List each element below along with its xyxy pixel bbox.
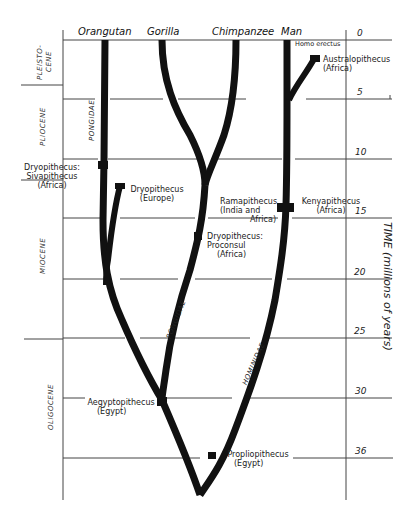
fossil-ramapithecus: Ramapithecus (India and Africa) xyxy=(220,197,276,224)
epoch-pleistocene-2: CENE xyxy=(45,51,53,72)
fossil-kenyapithecus-place: (Africa) xyxy=(300,206,362,215)
fossil-dryopithecus-europe-name: Dryopithecus xyxy=(126,185,188,194)
fossil-australopithecus-name: Australopithecus xyxy=(323,55,390,64)
fossil-sivapithecus-name1: Dryopithecus: xyxy=(12,163,92,172)
time-tick-10: 10 xyxy=(355,147,366,157)
time-tick-30: 30 xyxy=(355,386,366,396)
fossil-dryopithecus-europe: Dryopithecus (Europe) xyxy=(126,185,188,203)
column-label-orangutan: Orangutan xyxy=(78,26,132,37)
fossil-proconsul-name2: Proconsul xyxy=(207,241,263,250)
time-tick-25: 25 xyxy=(354,326,365,336)
epoch-pliocene: PLIOCENE xyxy=(39,107,47,146)
fossil-aegyptopithecus-name: Aegyptopithecus xyxy=(85,398,157,407)
time-tick-5: 5 xyxy=(357,87,363,97)
fossil-aegyptopithecus-place: (Egypt) xyxy=(85,407,157,416)
time-tick-36: 36 xyxy=(355,446,366,456)
fossil-ramapithecus-place1: (India and xyxy=(220,206,276,215)
fossil-proconsul-name1: Dryopithecus: xyxy=(207,232,263,241)
fossil-sivapithecus-place: (Africa) xyxy=(12,181,92,190)
column-label-man: Man xyxy=(281,26,302,37)
fossil-australopithecus: Australopithecus (Africa) xyxy=(323,55,390,73)
family-pongidae-upper: PONGIDAE xyxy=(88,100,96,141)
fossil-kenyapithecus-name: Kenyapithecus xyxy=(300,197,362,206)
column-label-chimpanzee: Chimpanzee xyxy=(212,26,274,37)
fossil-dryopithecus-europe-place: (Europe) xyxy=(126,194,188,203)
epoch-oligocene: OLIGOCENE xyxy=(47,384,55,430)
fossil-proconsul-place: (Africa) xyxy=(207,250,263,259)
time-axis-title: TIME (millions of years) xyxy=(381,222,394,351)
fossil-australopithecus-place: (Africa) xyxy=(323,64,390,73)
phylogeny-diagram xyxy=(0,0,412,529)
fossil-propliopithecus-place: (Egypt) xyxy=(222,459,294,468)
time-tick-0: 0 xyxy=(357,28,363,38)
time-tick-20: 20 xyxy=(354,267,365,277)
tree-branches xyxy=(103,40,314,495)
fossil-kenyapithecus: Kenyapithecus (Africa) xyxy=(300,197,362,215)
fossil-propliopithecus-name: Propliopithecus xyxy=(222,450,294,459)
fossil-aegyptopithecus: Aegyptopithecus (Egypt) xyxy=(85,398,157,416)
fossil-ramapithecus-place2: Africa) xyxy=(220,215,276,224)
fossil-sivapithecus: Dryopithecus: Sivapithecus (Africa) xyxy=(12,163,92,190)
epoch-miocene: MIOCENE xyxy=(39,238,47,274)
fossil-propliopithecus: Propliopithecus (Egypt) xyxy=(222,450,294,468)
fossil-ramapithecus-name: Ramapithecus xyxy=(220,197,276,206)
fossil-sivapithecus-name2: Sivapithecus xyxy=(12,172,92,181)
column-label-gorilla: Gorilla xyxy=(147,26,179,37)
epoch-pleistocene-1: PLEISTO- xyxy=(36,45,44,80)
fossil-homo-erectus: Homo erectus xyxy=(295,40,340,49)
fossil-proconsul: Dryopithecus: Proconsul (Africa) xyxy=(207,232,263,259)
grid-lines xyxy=(21,30,393,500)
